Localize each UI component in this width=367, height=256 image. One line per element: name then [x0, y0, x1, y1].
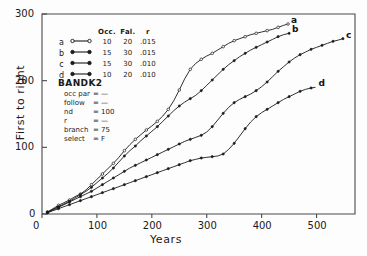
- data-point: [145, 129, 148, 132]
- data-point: [332, 40, 334, 42]
- data-point: [90, 190, 92, 192]
- parameter-value: —: [100, 117, 118, 126]
- data-point: [167, 115, 169, 117]
- data-point: [189, 68, 192, 71]
- x-tick-label: 100: [88, 220, 107, 231]
- curve-label-b: b: [292, 24, 298, 34]
- chart-figure: First to right Years Occ. Fal. r a1020.0…: [0, 0, 367, 256]
- data-point: [156, 120, 159, 123]
- legend-row-occ: 10: [96, 37, 118, 48]
- data-point: [266, 29, 269, 32]
- data-point: [101, 192, 103, 194]
- data-point: [90, 186, 92, 188]
- legend-line-icon: [69, 37, 93, 45]
- data-point: [277, 36, 279, 38]
- x-tick-label: 400: [253, 220, 272, 231]
- data-point: [90, 196, 92, 198]
- data-point: [222, 112, 224, 114]
- data-point: [255, 46, 257, 48]
- parameter-equals: =: [92, 108, 100, 117]
- data-point: [156, 172, 158, 174]
- data-point: [200, 157, 202, 159]
- parameter-value: 100: [100, 108, 118, 117]
- parameter-name: select: [63, 135, 92, 144]
- data-point: [255, 116, 257, 118]
- data-point: [156, 126, 158, 128]
- data-point: [134, 145, 136, 147]
- parameter-value: F: [100, 135, 118, 144]
- data-point: [211, 156, 213, 158]
- data-point: [123, 149, 126, 152]
- data-point: [200, 58, 203, 61]
- data-point: [189, 160, 191, 162]
- legend-row-key: b: [57, 48, 66, 59]
- curve-label-c: c: [346, 30, 351, 40]
- data-point: [134, 180, 136, 182]
- data-point: [266, 41, 268, 43]
- parameters-title: BANDK2: [58, 79, 118, 88]
- legend-row: b1530.015: [57, 48, 158, 59]
- data-point: [288, 32, 290, 34]
- data-point: [112, 162, 115, 165]
- legend-table: Occ. Fal. r a1020.015b1530.015c1530.010d…: [57, 28, 158, 81]
- legend-row-occ: 15: [96, 59, 118, 70]
- data-point: [244, 96, 246, 98]
- legend-header-spacer: [57, 28, 66, 37]
- legend-row-fal: 30: [118, 48, 138, 59]
- parameter-name: occ par: [63, 90, 92, 99]
- data-point: [200, 90, 202, 92]
- data-point: [299, 90, 301, 92]
- data-point: [211, 126, 213, 128]
- data-point: [288, 96, 290, 98]
- legend-row-sample: [66, 59, 96, 70]
- data-point: [266, 81, 268, 83]
- data-point: [167, 108, 170, 111]
- data-point: [189, 98, 191, 100]
- legend-line-icon: [69, 59, 93, 67]
- data-point: [123, 184, 125, 186]
- data-point: [277, 70, 279, 72]
- data-point: [244, 128, 246, 130]
- data-point: [287, 23, 290, 26]
- parameter-row: select=F: [63, 135, 118, 144]
- legend-body: a1020.015b1530.015c1530.010d1020.010: [57, 37, 158, 81]
- x-tick-label: 300: [198, 220, 217, 231]
- data-point: [200, 134, 202, 136]
- data-point: [211, 52, 214, 55]
- parameter-equals: =: [92, 117, 100, 126]
- parameter-value: 75: [100, 126, 118, 135]
- data-point: [222, 68, 224, 70]
- parameter-equals: =: [92, 135, 100, 144]
- data-point: [79, 196, 81, 198]
- data-point: [101, 173, 104, 176]
- y-axis-title: First to right: [14, 55, 27, 151]
- parameters-table: occ par=—follow=—nd=100r=—branch=75selec…: [63, 90, 118, 144]
- data-point: [57, 208, 59, 210]
- data-point: [68, 201, 70, 203]
- legend-row-sample: [66, 37, 96, 48]
- data-point: [178, 164, 180, 166]
- y-tick-label: 0: [29, 208, 35, 219]
- data-point: [277, 102, 279, 104]
- legend-header-fal: Fal.: [118, 28, 138, 37]
- data-point: [310, 48, 312, 50]
- legend-row-fal: 20: [118, 70, 138, 81]
- series-legend: Occ. Fal. r a1020.015b1530.015c1530.010d…: [57, 28, 158, 81]
- data-point: [112, 188, 114, 190]
- parameter-value: —: [100, 99, 118, 108]
- x-tick-label: 500: [308, 220, 327, 231]
- data-point: [299, 54, 301, 56]
- data-point: [222, 45, 225, 48]
- data-point: [167, 168, 169, 170]
- legend-row-key: a: [57, 37, 66, 48]
- data-point: [123, 155, 125, 157]
- legend-row: a1020.015: [57, 37, 158, 48]
- data-point: [255, 32, 258, 35]
- data-point: [101, 184, 103, 186]
- legend-row: c1530.010: [57, 59, 158, 70]
- data-point: [178, 143, 180, 145]
- plot-canvas: [0, 0, 367, 256]
- legend-row-r: .010: [138, 59, 158, 70]
- legend-header-row: Occ. Fal. r: [57, 28, 158, 37]
- parameters-body: occ par=—follow=—nd=100r=—branch=75selec…: [63, 90, 118, 144]
